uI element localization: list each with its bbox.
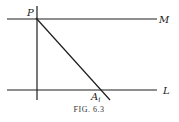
label-m: M — [158, 14, 170, 25]
label-a-subscript: i — [98, 96, 100, 104]
label-a-i: Ai — [90, 91, 100, 104]
label-a: A — [90, 91, 98, 102]
transversal-line — [36, 18, 110, 100]
figure-6-3-diagram: P M L Ai FIG. 6.3 — [0, 0, 179, 122]
label-l: L — [162, 85, 170, 96]
figure-caption: FIG. 6.3 — [74, 105, 105, 114]
label-p: P — [26, 7, 34, 18]
